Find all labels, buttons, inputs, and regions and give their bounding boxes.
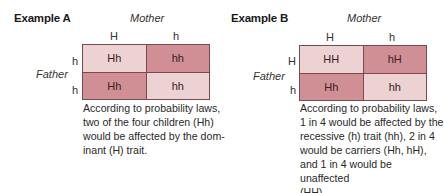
caption-line: According to probability laws,: [300, 101, 444, 115]
caption-line: and 1 in 4 would be unaffected: [300, 157, 444, 185]
caption-line: (HH).: [300, 185, 444, 193]
example-b-mother-allele-1: H: [320, 31, 340, 43]
caption-line: According to probability laws,: [83, 101, 225, 115]
punnett-cell: Hh: [83, 73, 146, 100]
example-b-mother-label: Mother: [347, 12, 381, 24]
example-a-caption: According to probability laws, two of th…: [83, 101, 225, 157]
example-a-father-allele-2: h: [72, 84, 78, 96]
punnett-square-a: Hh hh Hh hh: [82, 44, 210, 100]
example-a-mother-allele-1: H: [104, 30, 124, 42]
example-a-title: Example A: [14, 12, 71, 24]
caption-line: recessive (h) trait (hh), 2 in 4: [300, 129, 444, 143]
example-a-mother-allele-2: h: [166, 30, 186, 42]
example-b-father-allele-2: h: [290, 84, 296, 96]
punnett-cell: Hh: [300, 74, 363, 101]
example-a-father-allele-1: h: [72, 55, 78, 67]
punnett-cell: hH: [364, 46, 427, 73]
punnett-cell: Hh: [83, 45, 146, 72]
example-b-title: Example B: [231, 12, 288, 24]
punnett-cell: hh: [364, 74, 427, 101]
punnett-cell: hh: [147, 73, 210, 100]
example-a-father-label: Father: [36, 68, 68, 80]
caption-line: two of the four children (Hh): [83, 115, 225, 129]
example-b-father-label: Father: [253, 70, 285, 82]
example-b-mother-allele-2: h: [382, 31, 402, 43]
caption-line: inant (H) trait.: [83, 143, 225, 157]
caption-line: would be carriers (Hh, hH),: [300, 143, 444, 157]
caption-line: 1 in 4 would be affected by the: [300, 115, 444, 129]
punnett-cell: hh: [147, 45, 210, 72]
punnett-square-b: HH hH Hh hh: [299, 45, 427, 101]
example-a-mother-label: Mother: [130, 12, 164, 24]
punnett-cell: HH: [300, 46, 363, 73]
example-b-father-allele-1: H: [288, 55, 296, 67]
caption-line: would be affected by the dom-: [83, 129, 225, 143]
example-b-caption: According to probability laws, 1 in 4 wo…: [300, 101, 444, 193]
